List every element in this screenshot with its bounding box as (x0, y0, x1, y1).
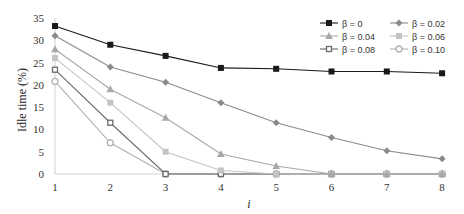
square-marker-icon (218, 167, 224, 173)
legend-item: β = 0 (320, 19, 362, 29)
x-tick-label: 7 (384, 181, 390, 193)
x-tick-label: 6 (329, 181, 335, 193)
series-line (52, 78, 445, 177)
diamond-marker-icon (383, 147, 390, 154)
square-marker-icon (163, 149, 169, 155)
legend-item: β = 0.04 (320, 32, 375, 42)
square-marker-icon (384, 68, 390, 74)
x-tick-label: 3 (163, 181, 169, 193)
square-marker-icon (107, 100, 113, 106)
triangle-marker-icon (217, 150, 225, 157)
diamond-marker-icon (396, 20, 403, 27)
legend-label: β = 0.04 (342, 32, 375, 42)
y-axis-label: Idle time (%) (15, 68, 29, 132)
hollow-circle-marker-icon (396, 46, 402, 52)
legend-label: β = 0 (342, 19, 362, 29)
diamond-marker-icon (162, 79, 169, 86)
diamond-marker-icon (273, 119, 280, 126)
triangle-marker-icon (162, 114, 170, 121)
hollow-square-marker-icon (327, 47, 332, 52)
x-tick-label: 8 (439, 181, 445, 193)
x-tick-label: 2 (108, 181, 114, 193)
y-tick-label: 25 (33, 57, 45, 69)
legend-label: β = 0.10 (412, 45, 445, 55)
series-group (51, 23, 446, 177)
legend-item: β = 0.06 (390, 32, 445, 42)
x-tick-label: 4 (218, 181, 224, 193)
square-marker-icon (163, 53, 169, 59)
legend-item: β = 0.08 (320, 45, 375, 55)
y-tick-label: 10 (33, 123, 45, 135)
square-marker-icon (273, 66, 279, 72)
diamond-marker-icon (52, 32, 59, 39)
legend-label: β = 0.06 (412, 32, 445, 42)
diamond-marker-icon (439, 155, 446, 162)
legend-item: β = 0.02 (390, 19, 445, 29)
square-marker-icon (218, 65, 224, 71)
x-tick-label: 1 (52, 181, 58, 193)
legend-label: β = 0.02 (412, 19, 445, 29)
square-marker-icon (396, 33, 402, 39)
y-tick-label: 35 (33, 12, 45, 24)
legend-label: β = 0.08 (342, 45, 375, 55)
diamond-marker-icon (107, 64, 114, 71)
triangle-marker-icon (107, 85, 115, 92)
square-marker-icon (439, 70, 445, 76)
square-marker-icon (329, 68, 335, 74)
square-marker-icon (273, 171, 279, 177)
hollow-square-marker-icon (108, 120, 113, 125)
hollow-circle-marker-icon (107, 140, 113, 146)
legend: β = 0β = 0.02β = 0.04β = 0.06β = 0.08β =… (320, 19, 445, 55)
hollow-square-marker-icon (163, 172, 168, 177)
square-marker-icon (107, 42, 113, 48)
y-tick-label: 5 (39, 146, 45, 158)
hollow-square-marker-icon (53, 67, 58, 72)
diamond-marker-icon (328, 134, 335, 141)
legend-item: β = 0.10 (390, 45, 445, 55)
y-tick-label: 15 (33, 101, 45, 113)
square-marker-icon (52, 55, 58, 61)
square-marker-icon (52, 23, 58, 29)
y-tick-label: 20 (33, 79, 45, 91)
square-marker-icon (326, 20, 332, 26)
x-tick-label: 5 (273, 181, 279, 193)
diamond-marker-icon (217, 99, 224, 106)
x-axis-label: i (247, 197, 250, 211)
hollow-circle-marker-icon (52, 78, 58, 84)
y-tick-label: 0 (39, 168, 45, 180)
y-tick-label: 30 (33, 34, 45, 46)
triangle-marker-icon (51, 45, 59, 52)
line-chart: 0510152025303512345678 β = 0β = 0.02β = … (0, 0, 464, 214)
